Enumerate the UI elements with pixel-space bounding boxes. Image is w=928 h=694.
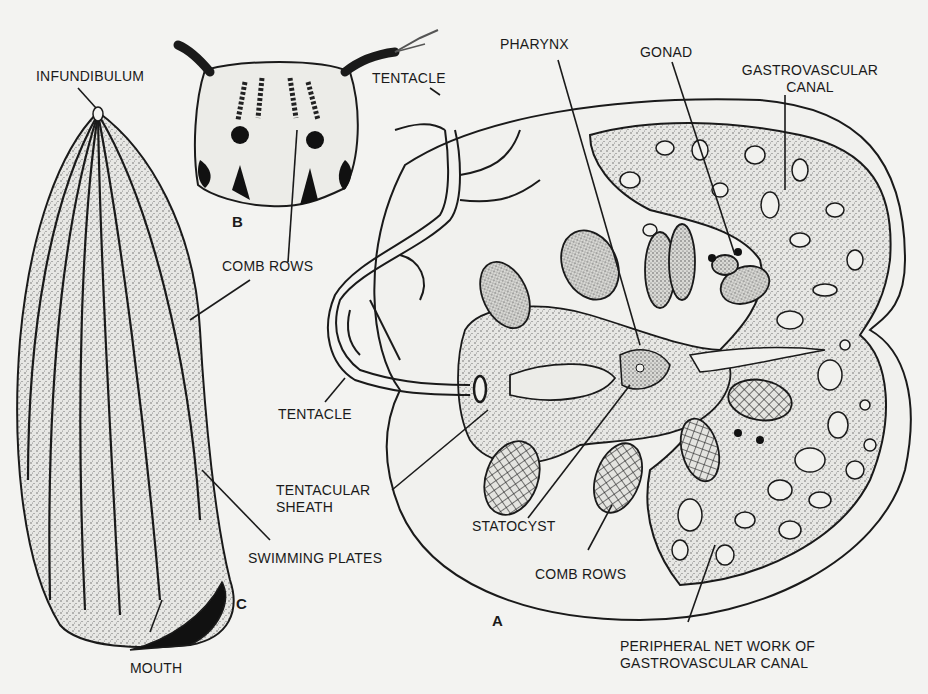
label-gastrovascular-canal: GASTROVASCULAR CANAL — [730, 62, 890, 96]
label-tentacle-top: TENTACLE — [372, 70, 446, 87]
figure-label-a: A — [492, 612, 503, 629]
label-comb-rows-upper: COMB ROWS — [222, 258, 313, 275]
diagram-canvas — [0, 0, 928, 694]
label-gastrovascular-canal-line1: GASTROVASCULAR — [730, 62, 890, 79]
label-tentacular-sheath-line2: SHEATH — [276, 499, 370, 516]
label-peripheral-network: PERIPHERAL NET WORK OF GASTROVASCULAR CA… — [620, 638, 815, 672]
label-gastrovascular-canal-line2: CANAL — [730, 79, 890, 96]
label-peripheral-line2: GASTROVASCULAR CANAL — [620, 655, 815, 672]
label-tentacular-sheath-line1: TENTACULAR — [276, 482, 370, 499]
figure-label-b: B — [232, 213, 243, 230]
label-peripheral-line1: PERIPHERAL NET WORK OF — [620, 638, 815, 655]
label-tentacular-sheath: TENTACULAR SHEATH — [276, 482, 370, 516]
label-statocyst: STATOCYST — [472, 518, 555, 535]
infundibulum-pore — [93, 107, 103, 121]
label-mouth: MOUTH — [130, 660, 182, 677]
label-swimming-plates: SWIMMING PLATES — [248, 550, 382, 567]
figure-label-c: C — [236, 595, 247, 612]
label-tentacle-left: TENTACLE — [278, 406, 352, 423]
label-pharynx: PHARYNX — [500, 36, 569, 53]
label-comb-rows-lower: COMB ROWS — [535, 566, 626, 583]
figure-a-section — [328, 99, 911, 620]
label-gonad: GONAD — [640, 44, 692, 61]
label-infundibulum: INFUNDIBULUM — [36, 68, 144, 85]
